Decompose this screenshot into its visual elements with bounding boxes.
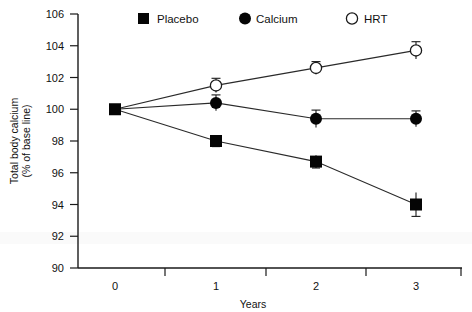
data-point-placebo-year3 bbox=[410, 199, 422, 211]
legend-item-hrt: HRT bbox=[346, 13, 387, 25]
open-circle-icon bbox=[346, 13, 357, 24]
y-tick-label-94: 94 bbox=[52, 199, 64, 211]
legend-label-calcium: Calcium bbox=[256, 13, 298, 25]
filled-square-icon bbox=[138, 13, 149, 24]
y-tick-label-98: 98 bbox=[52, 135, 64, 147]
chart-figure: Placebo Calcium HRT bbox=[0, 0, 472, 312]
y-axis-title-line1: Total body calcium bbox=[8, 98, 20, 185]
x-tick-label-0: 0 bbox=[112, 280, 118, 292]
data-point-calcium-year3 bbox=[410, 113, 422, 125]
series-line-calcium bbox=[115, 103, 416, 119]
y-axis-title: Total body calcium (% of base line) bbox=[8, 98, 32, 185]
chart-legend: Placebo Calcium HRT bbox=[138, 13, 387, 26]
x-axis: 0 1 2 3 Years bbox=[78, 268, 462, 310]
error-bars-placebo bbox=[212, 135, 421, 216]
legend-item-placebo: Placebo bbox=[138, 13, 199, 25]
data-point-placebo-year1 bbox=[210, 135, 222, 147]
data-point-calcium-year2 bbox=[310, 113, 322, 125]
data-point-calcium-year1 bbox=[210, 97, 222, 109]
legend-label-hrt: HRT bbox=[364, 13, 387, 25]
y-tick-label-100: 100 bbox=[46, 103, 64, 115]
data-point-hrt-year1 bbox=[210, 80, 221, 91]
series-line-hrt bbox=[115, 50, 416, 109]
data-point-placebo-year0 bbox=[109, 103, 121, 115]
x-tick-label-2: 2 bbox=[313, 280, 319, 292]
background-band bbox=[0, 232, 472, 244]
x-tick-label-1: 1 bbox=[213, 280, 219, 292]
data-point-hrt-year2 bbox=[310, 62, 321, 73]
data-point-hrt-year3 bbox=[410, 45, 421, 56]
y-axis-title-line2: (% of base line) bbox=[20, 105, 32, 178]
x-axis-tick-labels: 0 1 2 3 bbox=[112, 280, 419, 292]
y-tick-label-92: 92 bbox=[52, 230, 64, 242]
y-tick-label-106: 106 bbox=[46, 8, 64, 20]
series-hrt bbox=[115, 42, 422, 110]
filled-circle-icon bbox=[239, 13, 251, 25]
y-tick-label-102: 102 bbox=[46, 72, 64, 84]
y-tick-label-104: 104 bbox=[46, 40, 64, 52]
series-calcium bbox=[115, 95, 422, 128]
series-placebo bbox=[109, 103, 422, 216]
x-tick-label-3: 3 bbox=[413, 280, 419, 292]
legend-item-calcium: Calcium bbox=[239, 13, 298, 26]
x-axis-ticks bbox=[165, 268, 461, 276]
series-line-placebo bbox=[115, 109, 416, 204]
x-axis-title: Years bbox=[240, 298, 266, 310]
data-point-placebo-year2 bbox=[310, 156, 322, 168]
chart-svg: Placebo Calcium HRT bbox=[0, 0, 472, 312]
y-tick-label-96: 96 bbox=[52, 167, 64, 179]
y-tick-label-90: 90 bbox=[52, 262, 64, 274]
y-axis-ticks bbox=[70, 14, 78, 268]
legend-label-placebo: Placebo bbox=[157, 13, 199, 25]
